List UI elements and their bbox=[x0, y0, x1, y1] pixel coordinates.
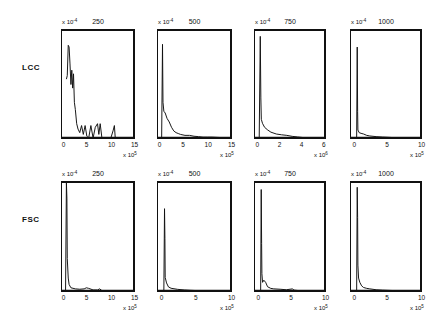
y-axis-exponent: x 10-4 bbox=[62, 19, 77, 25]
x-tick-label: 10 bbox=[205, 141, 212, 148]
x-tick-label: 5 bbox=[181, 141, 185, 148]
plot-area bbox=[157, 29, 232, 139]
plot-area bbox=[254, 181, 326, 292]
x-tick-label: 5 bbox=[289, 294, 293, 301]
plot-area bbox=[350, 29, 422, 139]
histogram-line bbox=[259, 36, 324, 138]
x-tick-label: 10 bbox=[418, 141, 425, 148]
x-axis-exponent: x 105 bbox=[314, 305, 328, 311]
plot-area bbox=[157, 181, 232, 292]
x-tick-label: 10 bbox=[322, 294, 329, 301]
x-tick-label: 0 bbox=[257, 294, 261, 301]
y-axis-exponent: x 10-4 bbox=[255, 19, 270, 25]
histogram-line bbox=[164, 209, 230, 291]
x-tick-label: 5 bbox=[194, 294, 198, 301]
y-axis-exponent: x 10-4 bbox=[62, 171, 77, 177]
x-axis-exponent: x 105 bbox=[410, 305, 424, 311]
y-axis-exponent: x 10-4 bbox=[158, 19, 173, 25]
row-label-lcc: LCC bbox=[22, 63, 40, 72]
histogram-line bbox=[357, 187, 420, 291]
x-tick-label: 5 bbox=[385, 294, 389, 301]
x-tick-label: 10 bbox=[228, 294, 235, 301]
row-label-fsc: FSC bbox=[22, 215, 40, 224]
x-tick-label: 15 bbox=[228, 141, 235, 148]
plot-area bbox=[61, 29, 135, 139]
histogram-line bbox=[357, 47, 420, 138]
plot-area bbox=[254, 29, 326, 139]
x-axis-exponent: x 105 bbox=[123, 305, 137, 311]
x-tick-label: 0 bbox=[256, 141, 260, 148]
histogram-line bbox=[162, 44, 230, 138]
x-axis-exponent: x 106 bbox=[314, 152, 328, 158]
x-tick-label: 0 bbox=[160, 294, 164, 301]
x-tick-label: 15 bbox=[131, 294, 138, 301]
x-tick-label: 4 bbox=[300, 141, 304, 148]
x-tick-label: 10 bbox=[108, 141, 115, 148]
y-axis-exponent: x 10-4 bbox=[158, 171, 173, 177]
x-tick-label: 2 bbox=[278, 141, 282, 148]
y-axis-exponent: x 10-4 bbox=[351, 19, 366, 25]
x-axis-exponent: x 105 bbox=[220, 305, 234, 311]
x-tick-label: 5 bbox=[385, 141, 389, 148]
x-tick-label: 0 bbox=[62, 141, 66, 148]
plot-area bbox=[61, 181, 135, 292]
x-tick-label: 0 bbox=[158, 141, 162, 148]
x-tick-label: 10 bbox=[418, 294, 425, 301]
x-tick-label: 0 bbox=[62, 294, 66, 301]
histogram-line bbox=[66, 45, 133, 138]
y-axis-exponent: x 10-4 bbox=[351, 171, 366, 177]
x-tick-label: 0 bbox=[353, 294, 357, 301]
x-tick-label: 6 bbox=[322, 141, 326, 148]
x-tick-label: 5 bbox=[85, 294, 89, 301]
plot-area bbox=[350, 181, 422, 292]
histogram-line bbox=[66, 183, 133, 291]
x-axis-exponent: x 105 bbox=[220, 152, 234, 158]
histogram-line bbox=[261, 190, 324, 291]
x-axis-exponent: x 105 bbox=[123, 152, 137, 158]
y-axis-exponent: x 10-4 bbox=[255, 171, 270, 177]
x-tick-label: 15 bbox=[131, 141, 138, 148]
x-tick-label: 10 bbox=[108, 294, 115, 301]
x-axis-exponent: x 105 bbox=[410, 152, 424, 158]
x-tick-label: 0 bbox=[353, 141, 357, 148]
x-tick-label: 5 bbox=[85, 141, 89, 148]
